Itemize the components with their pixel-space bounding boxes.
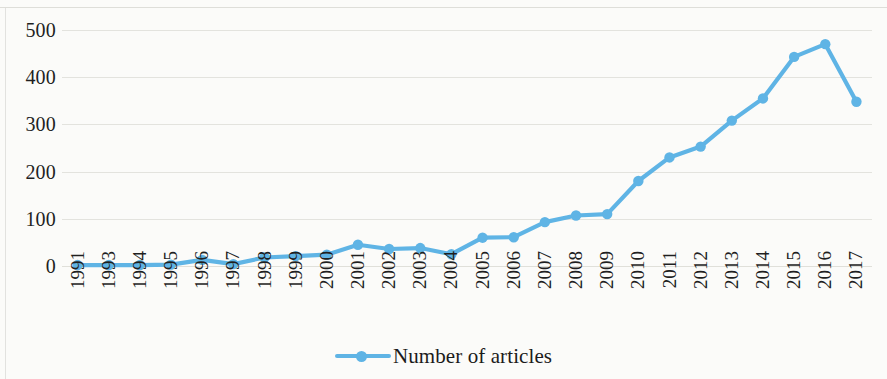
x-tick-label-2010: 2010 [628,251,648,313]
chart-legend: Number of articles [0,340,887,372]
x-tick-label-2003: 2003 [410,251,430,313]
legend-label-number-of-articles: Number of articles [393,345,552,367]
x-tick-label-2002: 2002 [379,251,399,313]
data-point-2005 [477,232,487,242]
data-point-2010 [633,176,643,186]
chart-figure: 0100200300400500 19911993199419951996199… [0,0,887,379]
data-point-2016 [820,39,830,49]
x-tick-label-2009: 2009 [597,251,617,313]
x-tick-label-2007: 2007 [535,251,555,313]
data-point-2014 [758,93,768,103]
data-point-2001 [353,240,363,250]
data-point-2008 [571,210,581,220]
legend-marker-icon [356,351,367,362]
x-tick-label-1991: 1991 [68,251,88,313]
x-tick-label-2000: 2000 [317,251,337,313]
x-tick-label-2015: 2015 [784,251,804,313]
data-point-2007 [540,217,550,227]
x-tick-label-2014: 2014 [753,251,773,313]
data-polyline [78,44,857,265]
x-tick-label-2013: 2013 [722,251,742,313]
x-tick-label-2006: 2006 [504,251,524,313]
data-point-2006 [509,232,519,242]
x-tick-label-2005: 2005 [473,251,493,313]
x-tick-label-2008: 2008 [566,251,586,313]
legend-swatch-number-of-articles [335,348,391,364]
x-tick-label-1995: 1995 [161,251,181,313]
x-tick-label-2001: 2001 [348,251,368,313]
x-tick-label-1996: 1996 [192,251,212,313]
x-tick-label-2016: 2016 [815,251,835,313]
x-tick-label-2017: 2017 [846,251,866,313]
x-tick-label-1999: 1999 [286,251,306,313]
x-tick-label-2012: 2012 [691,251,711,313]
x-tick-label-1993: 1993 [99,251,119,313]
data-point-2015 [789,52,799,62]
data-point-markers [72,39,861,270]
data-point-2017 [851,97,861,107]
data-point-2009 [602,209,612,219]
x-tick-label-2004: 2004 [441,251,461,313]
x-tick-label-1997: 1997 [223,251,243,313]
x-axis-labels: 1991199319941995199619971998199920002001… [62,272,872,334]
data-point-2013 [727,115,737,125]
x-tick-label-2011: 2011 [660,251,680,313]
data-point-2012 [695,141,705,151]
x-tick-label-1998: 1998 [255,251,275,313]
data-point-2011 [664,152,674,162]
x-tick-label-1994: 1994 [130,251,150,313]
